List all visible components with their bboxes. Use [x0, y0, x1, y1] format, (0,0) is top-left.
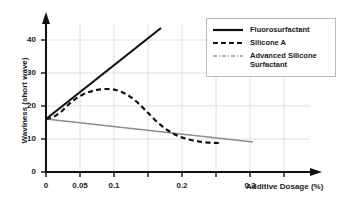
y-axis [42, 12, 50, 172]
legend-label-silicone-a: Silicone A [250, 38, 286, 47]
series-line-advanced-silicone-surfactant [46, 119, 253, 142]
x-tick-label-02: 0.2 [170, 181, 194, 190]
legend-label-advanced-silicone-surfactant: Advanced Silicone [250, 51, 317, 60]
x-axis [46, 168, 322, 176]
x-tick-label-01: 0.1 [102, 181, 126, 190]
legend-label-fluorosurfactant: Fluorosurfactant [250, 25, 310, 34]
legend-swatch-dashdot-line-icon [212, 51, 244, 61]
series-line-fluorosurfactant [46, 28, 161, 119]
x-axis-title: Additive Dosage (%) [246, 182, 323, 191]
legend-item-advanced-silicone-surfactant: Advanced Silicone Surfactant [210, 51, 332, 69]
y-axis-title: Waviness (short wave) [20, 31, 29, 171]
x-tick-label-0: 0 [36, 181, 56, 190]
legend-item-silicone-a: Silicone A [210, 38, 332, 48]
chart-container: 40 30 20 10 0 0 0.05 0.1 0.2 0.3 Wavines… [0, 0, 344, 204]
x-tick-label-005: 0.05 [66, 181, 94, 190]
legend-swatch-dashed-line-icon [212, 38, 244, 48]
legend-label-advanced-silicone-surfactant-line2: Surfactant [250, 60, 287, 69]
legend-item-fluorosurfactant: Fluorosurfactant [210, 25, 332, 35]
legend: Fluorosurfactant Silicone A Advanced Sil… [206, 18, 336, 77]
legend-swatch-solid-line-icon [212, 25, 244, 35]
